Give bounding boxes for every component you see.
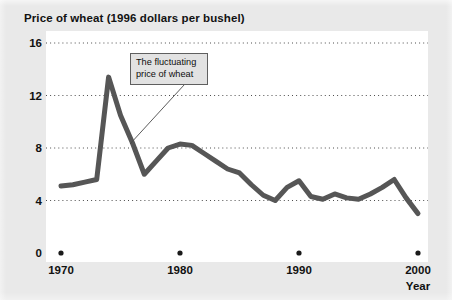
x-axis-tick-label: 1970 <box>48 264 74 276</box>
annotation-callout: The fluctuating price of wheat <box>130 53 208 85</box>
x-axis-labels: 1970198019902000 <box>46 264 428 282</box>
annotation-line-1: The fluctuating <box>136 57 203 69</box>
y-axis-labels: 1612840 <box>4 31 42 262</box>
annotation-line-2: price of wheat <box>136 69 203 81</box>
y-axis-tick-label: 12 <box>8 90 42 102</box>
x-axis-tick-label: 1990 <box>286 264 312 276</box>
x-axis-title: Year <box>406 280 430 292</box>
line-chart-svg <box>46 31 428 262</box>
plot-area <box>46 31 428 262</box>
y-axis-tick-label: 4 <box>8 195 42 207</box>
x-axis-tick-label: 2000 <box>405 264 431 276</box>
data-line <box>61 77 418 214</box>
x-axis-tick-marker <box>296 250 301 255</box>
x-axis-tick-marker <box>58 250 63 255</box>
chart-figure: Price of wheat (1996 dollars per bushel)… <box>0 0 452 300</box>
y-axis-tick-label: 0 <box>8 247 42 259</box>
x-axis-markers <box>58 250 420 255</box>
page-title: Price of wheat (1996 dollars per bushel) <box>24 12 245 24</box>
y-axis-tick-label: 16 <box>8 37 42 49</box>
y-axis-tick-label: 8 <box>8 142 42 154</box>
x-axis-tick-label: 1980 <box>167 264 193 276</box>
x-axis-tick-marker <box>177 250 182 255</box>
x-axis-tick-marker <box>415 250 420 255</box>
data-series-group <box>61 77 418 214</box>
